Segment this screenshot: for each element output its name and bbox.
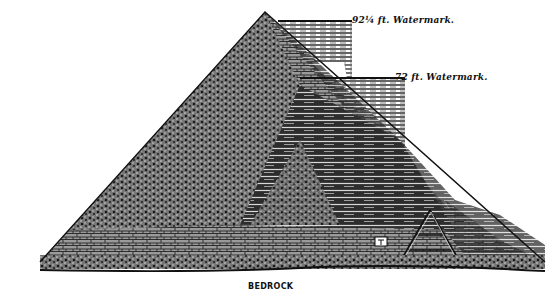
- bedrock-label: BEDROCK: [248, 282, 293, 291]
- pyramid-diagram: 92¼ ft. Watermark. 72 ft. Watermark. BED…: [0, 0, 555, 303]
- watermark-92-label: 92¼ ft. Watermark.: [352, 15, 454, 25]
- pyramid-illustration: [0, 0, 555, 303]
- watermark-72-label: 72 ft. Watermark.: [395, 72, 488, 82]
